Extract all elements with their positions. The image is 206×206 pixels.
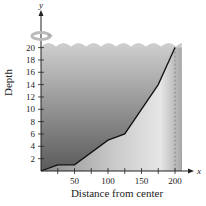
y-tick-label: 16 — [26, 67, 36, 77]
y-axis-label: Depth — [2, 69, 14, 96]
x-axis-var: x — [196, 166, 201, 176]
x-tick-label: 100 — [101, 176, 115, 186]
rotation-arrow-icon — [32, 33, 53, 40]
y-tick-label: 6 — [31, 129, 36, 139]
y-tick-label: 8 — [31, 117, 36, 127]
x-axis-label: Distance from center — [0, 187, 206, 199]
y-tick-label: 4 — [31, 141, 36, 151]
y-tick-label: 20 — [26, 43, 36, 53]
y-tick-label: 12 — [26, 92, 35, 102]
y-axis-var: y — [38, 0, 43, 10]
x-tick-label: 150 — [135, 176, 149, 186]
x-tick-label: 200 — [168, 176, 182, 186]
x-axis-arrow-icon — [188, 169, 194, 174]
y-axis-arrow-icon — [39, 10, 44, 16]
chart-canvas: xy 2468101214161820 50100150200 — [0, 0, 206, 206]
y-tick-label: 18 — [26, 55, 36, 65]
depth-chart: xy 2468101214161820 50100150200 Depth Di… — [0, 0, 206, 206]
y-tick-label: 10 — [26, 104, 36, 114]
x-tick-label: 50 — [70, 176, 80, 186]
y-tick-label: 14 — [26, 80, 36, 90]
y-tick-label: 2 — [31, 154, 36, 164]
